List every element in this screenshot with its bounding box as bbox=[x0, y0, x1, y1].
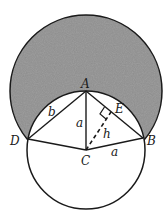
label-point-B: B bbox=[146, 134, 156, 148]
label-point-D: D bbox=[9, 134, 20, 148]
label-segment-b: b bbox=[48, 105, 56, 119]
label-segment-h: h bbox=[103, 127, 111, 141]
label-segment-a-vertical: a bbox=[76, 116, 83, 130]
label-segment-a-bottom: a bbox=[111, 145, 118, 159]
label-point-A: A bbox=[80, 77, 90, 91]
label-point-C: C bbox=[81, 154, 90, 168]
geometry-diagram: A E D B C b a h a bbox=[0, 0, 167, 218]
label-point-E: E bbox=[114, 102, 124, 116]
